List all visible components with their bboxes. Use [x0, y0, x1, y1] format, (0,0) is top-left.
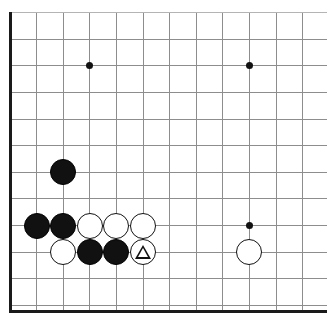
- triangle-icon-inner: [138, 248, 148, 257]
- board-markers: [0, 0, 327, 323]
- go-board: [0, 0, 327, 323]
